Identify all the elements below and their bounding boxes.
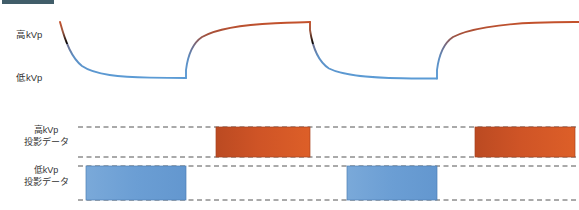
projection-data-plot: [0, 112, 579, 210]
tube-voltage-waveform-plot: [0, 10, 579, 102]
waveform-falling-segment-1: [60, 22, 186, 78]
low-kvp-projection-label-line1: 低kVp: [14, 164, 78, 176]
projection-data-panel: 高kVp 投影データ 低kVp 投影データ: [0, 112, 579, 210]
waveform-low-kvp-label: 低kVp: [16, 72, 42, 83]
high-kvp-projection-blocks: [216, 127, 575, 157]
tube-voltage-waveform-panel: 高kVp 低kVp: [0, 10, 579, 102]
low-kvp-projection-block: [86, 166, 186, 200]
low-kvp-projection-blocks: [86, 166, 437, 200]
waveform-falling-segment-2: [310, 22, 437, 79]
waveform-rising-segment-1: [186, 22, 310, 78]
high-kvp-projection-block: [216, 127, 310, 157]
low-kvp-projection-label: 低kVp 投影データ: [14, 164, 78, 188]
high-kvp-projection-label-line1: 高kVp: [14, 124, 78, 136]
kvp-projection-figure: 高kVp 低kVp: [0, 0, 579, 210]
high-kvp-projection-label-line2: 投影データ: [14, 136, 78, 148]
waveform-high-kvp-label: 高kVp: [16, 29, 42, 40]
waveform-rising-segment-2: [437, 22, 579, 79]
cropped-top-text-strip: [0, 0, 579, 8]
low-kvp-projection-block: [347, 166, 437, 200]
high-kvp-projection-block: [475, 127, 575, 157]
low-kvp-projection-label-line2: 投影データ: [14, 176, 78, 188]
high-kvp-projection-label: 高kVp 投影データ: [14, 124, 78, 148]
cropped-text-swatch: [2, 0, 54, 4]
